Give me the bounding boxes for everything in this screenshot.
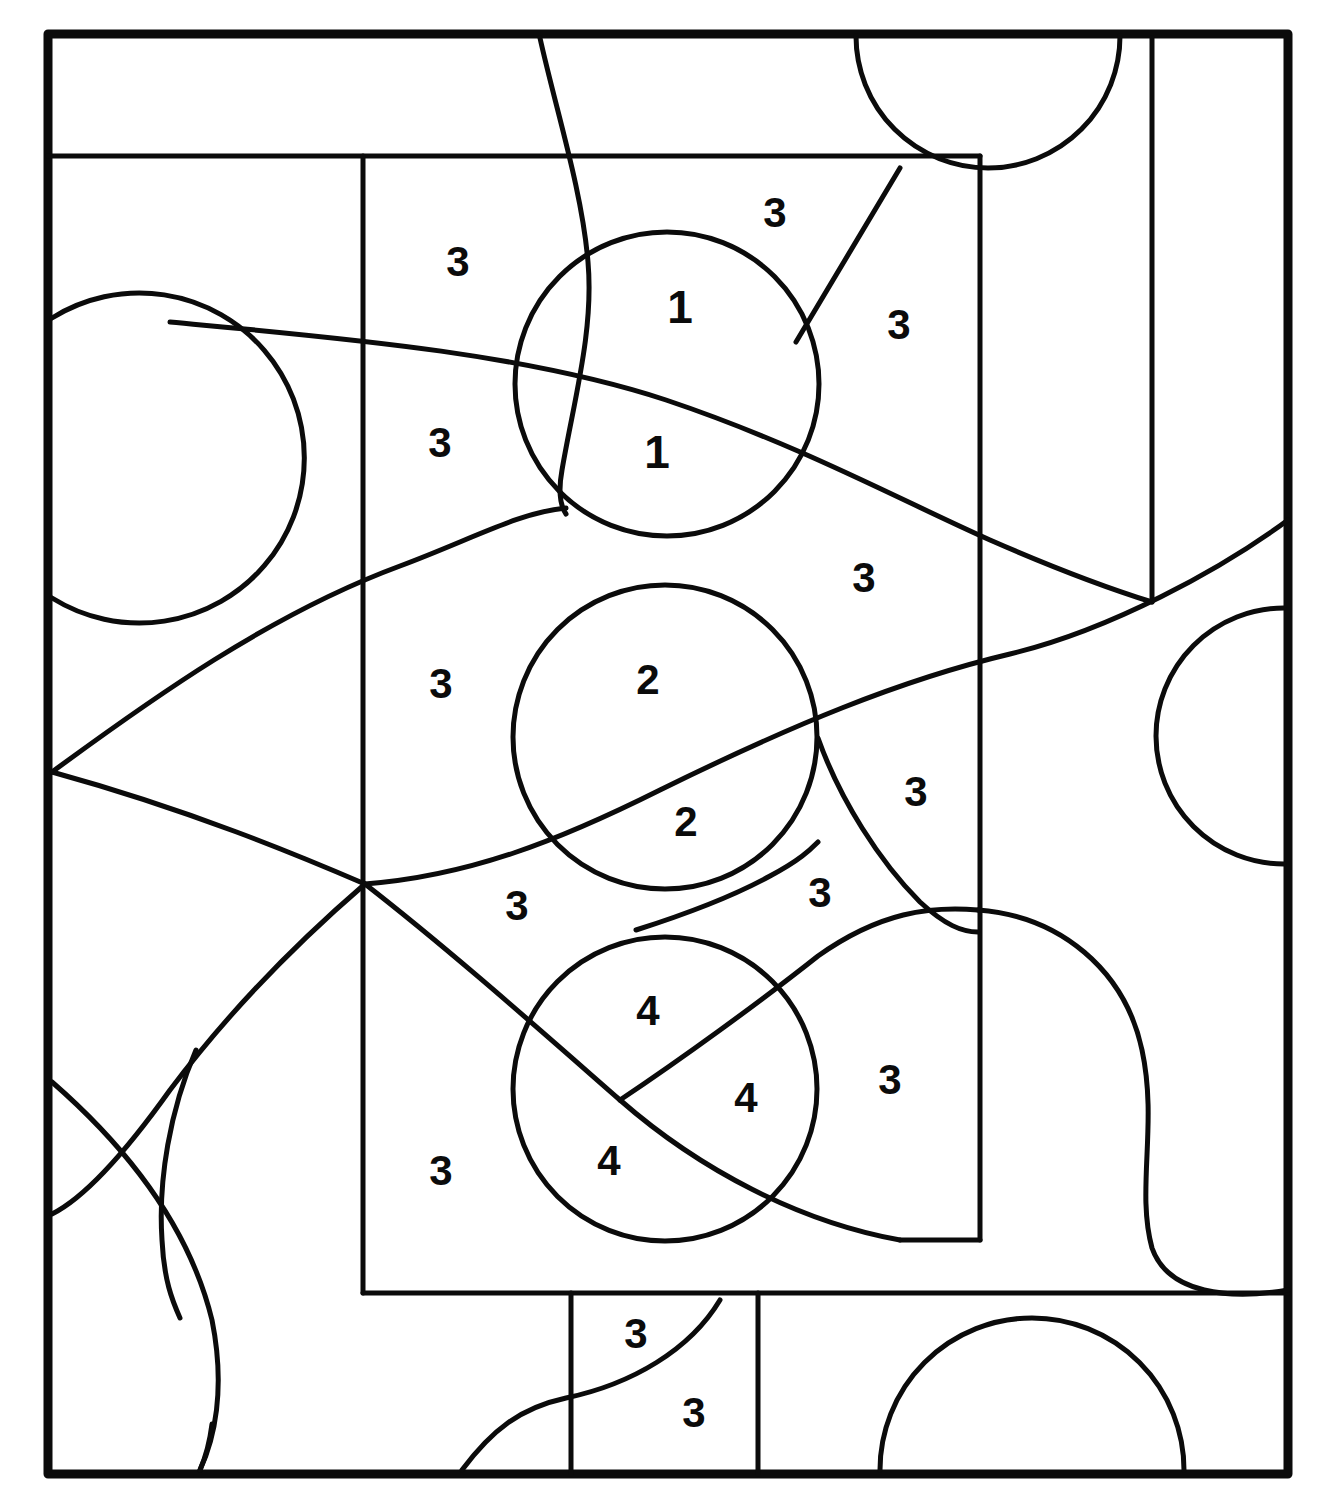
- region-label: 3: [904, 771, 927, 813]
- curve-two-right-drop: [818, 738, 978, 932]
- circle-top-notch: [856, 36, 1120, 168]
- curve-top-right-diagonal: [796, 168, 900, 342]
- region-label: 1: [644, 429, 670, 475]
- curve-mid-left-arc: [52, 508, 566, 772]
- region-label: 3: [682, 1392, 705, 1434]
- region-label: 2: [636, 659, 659, 701]
- circle-left-edge: [52, 293, 304, 623]
- region-label: 3: [429, 663, 452, 705]
- region-label: 3: [446, 241, 469, 283]
- curve-long-diagonal: [52, 520, 1288, 884]
- curve-bottom-band-wave: [462, 1300, 720, 1470]
- circle-four: [513, 937, 817, 1241]
- curve-bottom-left-foot: [200, 1424, 212, 1470]
- region-label: 3: [624, 1313, 647, 1355]
- circle-bottom-right: [880, 1318, 1184, 1470]
- outer-frame: [48, 34, 1288, 1474]
- curve-bottom-left-leaf-inner: [161, 1050, 196, 1318]
- region-label: 3: [852, 557, 875, 599]
- curve-bottom-left-leaf-outer: [52, 1082, 218, 1470]
- curve-right-lower-S: [978, 910, 1288, 1294]
- curve-top-wave: [540, 38, 589, 514]
- region-label: 3: [887, 304, 910, 346]
- circle-right-bulge: [1156, 608, 1284, 864]
- region-label: 4: [734, 1077, 757, 1119]
- curve-lower-left-sweep: [52, 884, 365, 1214]
- curve-two-four-link: [636, 842, 818, 930]
- region-label: 3: [429, 1150, 452, 1192]
- region-label: 4: [597, 1140, 620, 1182]
- region-label: 3: [428, 422, 451, 464]
- region-label: 3: [763, 192, 786, 234]
- region-label: 3: [808, 872, 831, 914]
- region-label: 1: [667, 284, 693, 330]
- line-drawing-svg: [0, 0, 1324, 1508]
- drawing-canvas: 3 3 1 3 3 1 3 3 2 2 3 3 3 4 4 3 4 3 3 3: [0, 0, 1324, 1508]
- region-label: 3: [505, 885, 528, 927]
- region-label: 2: [674, 801, 697, 843]
- region-label: 3: [878, 1059, 901, 1101]
- region-label: 4: [636, 990, 659, 1032]
